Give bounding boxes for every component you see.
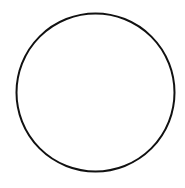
circle-shape: [17, 14, 175, 172]
diagram-svg: [0, 0, 185, 188]
diagram-canvas: [0, 0, 185, 188]
